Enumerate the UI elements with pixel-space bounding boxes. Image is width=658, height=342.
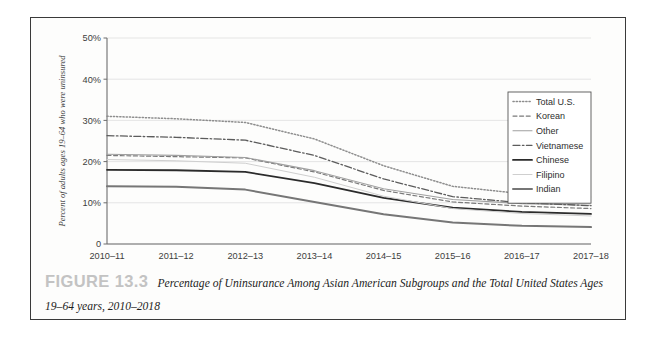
y-tick-label: 30% bbox=[83, 116, 101, 126]
legend-label[interactable]: Filipino bbox=[536, 170, 565, 180]
y-tick-label: 0 bbox=[96, 239, 101, 249]
x-tick-labels-group: 2010–112011–122012–132013–142014–152015–… bbox=[89, 251, 608, 261]
chart-legend[interactable]: Total U.S.KoreanOtherVietnameseChineseFi… bbox=[508, 92, 591, 203]
y-tick-labels-group: 010%20%30%40%50% bbox=[83, 33, 107, 249]
x-tick-label: 2013–14 bbox=[297, 251, 333, 261]
legend-label[interactable]: Other bbox=[536, 126, 559, 136]
chart-plot-area: 010%20%30%40%50% 2010–112011–122012–1320… bbox=[31, 18, 627, 270]
y-tick-label: 40% bbox=[83, 75, 101, 85]
y-tick-label: 10% bbox=[83, 198, 101, 208]
figure-number: FIGURE 13.3 bbox=[45, 272, 148, 290]
x-tick-label: 2015–16 bbox=[435, 251, 471, 261]
legend-label[interactable]: Vietnamese bbox=[536, 141, 583, 151]
x-tick-label: 2010–11 bbox=[89, 251, 124, 261]
figure-card: 010%20%30%40%50% 2010–112011–122012–1320… bbox=[30, 17, 626, 320]
x-tick-label: 2011–12 bbox=[159, 251, 194, 261]
x-tick-label: 2016–17 bbox=[504, 251, 540, 261]
x-tick-label: 2014–15 bbox=[366, 251, 402, 261]
x-tick-label: 2017–18 bbox=[573, 251, 609, 261]
figure-caption: FIGURE 13.3Percentage of Uninsurance Amo… bbox=[45, 270, 615, 316]
y-tick-label: 20% bbox=[83, 157, 101, 167]
y-axis-title: Percent of adults ages 19–64 who were un… bbox=[57, 55, 67, 228]
y-axis-title-text: Percent of adults ages 19–64 who were un… bbox=[57, 55, 67, 228]
legend-label[interactable]: Korean bbox=[536, 111, 565, 121]
legend-label[interactable]: Chinese bbox=[536, 155, 569, 165]
x-tick-label: 2012–13 bbox=[227, 251, 263, 261]
y-tick-label: 50% bbox=[83, 33, 101, 43]
line-chart: 010%20%30%40%50% 2010–112011–122012–1320… bbox=[31, 18, 627, 270]
legend-label[interactable]: Total U.S. bbox=[536, 97, 575, 107]
legend-label[interactable]: Indian bbox=[536, 184, 561, 194]
